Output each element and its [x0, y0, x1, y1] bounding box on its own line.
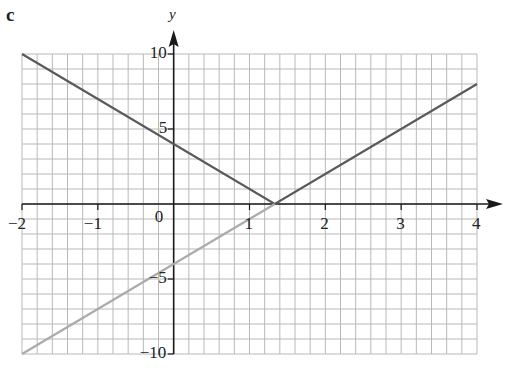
y-tick-label: −10	[140, 343, 167, 363]
x-tick-label: 3	[396, 214, 405, 234]
x-tick-label: 1	[245, 214, 254, 234]
y-tick-label: 10	[150, 43, 167, 63]
x-tick-label: 0	[155, 207, 164, 227]
x-tick-label: −1	[84, 214, 102, 234]
graph-plot	[0, 0, 507, 373]
x-tick-label: −2	[8, 214, 26, 234]
x-tick-label: 2	[320, 214, 329, 234]
y-tick-label: 5	[159, 118, 168, 138]
x-tick-label: 4	[472, 214, 481, 234]
y-tick-label: −5	[149, 268, 167, 288]
axes	[22, 30, 503, 354]
